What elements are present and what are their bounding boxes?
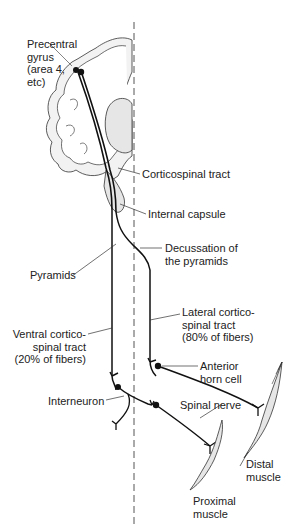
label-internal-capsule: Internal capsule bbox=[148, 208, 226, 221]
label-pyramids: Pyramids bbox=[30, 269, 76, 282]
label-line: muscle bbox=[193, 508, 236, 521]
label-line: Anterior bbox=[200, 360, 242, 373]
label-precentral-gyrus: Precentral gyrus (area 4, etc) bbox=[27, 38, 77, 88]
label-decussation: Decussation of the pyramids bbox=[165, 242, 238, 267]
label-distal-muscle: Distal muscle bbox=[246, 458, 281, 483]
label-line: gyrus bbox=[27, 51, 77, 64]
label-spinal-nerve: Spinal nerve bbox=[180, 399, 241, 412]
label-line: Decussation of bbox=[165, 242, 238, 255]
label-line: (20% of fibers) bbox=[4, 353, 86, 366]
label-corticospinal-tract: Corticospinal tract bbox=[142, 168, 230, 181]
label-line: spinal tract bbox=[182, 319, 255, 332]
label-line: Lateral cortico- bbox=[182, 306, 255, 319]
label-line: Precentral bbox=[27, 38, 77, 51]
label-line: Proximal bbox=[193, 495, 236, 508]
label-line: Ventral cortico- bbox=[4, 328, 86, 341]
label-line: etc) bbox=[27, 76, 77, 89]
label-interneuron: Interneuron bbox=[48, 395, 104, 408]
label-ventral-corticospinal-tract: Ventral cortico- spinal tract (20% of fi… bbox=[4, 328, 86, 366]
distal-muscle bbox=[244, 362, 282, 458]
label-line: (area 4, bbox=[27, 63, 77, 76]
proximal-muscle bbox=[190, 420, 223, 490]
label-anterior-horn-cell: Anterior horn cell bbox=[200, 360, 242, 385]
ventral-corticospinal-tract bbox=[112, 210, 116, 390]
label-line: (80% of fibers) bbox=[182, 331, 255, 344]
label-proximal-muscle: Proximal muscle bbox=[193, 495, 236, 520]
lateral-corticospinal-tract bbox=[116, 212, 156, 376]
label-line: the pyramids bbox=[165, 255, 238, 268]
label-line: spinal tract bbox=[4, 341, 86, 354]
label-line: muscle bbox=[246, 471, 281, 484]
label-line: horn cell bbox=[200, 373, 242, 386]
label-line: Distal bbox=[246, 458, 281, 471]
label-lateral-corticospinal-tract: Lateral cortico- spinal tract (80% of fi… bbox=[182, 306, 255, 344]
